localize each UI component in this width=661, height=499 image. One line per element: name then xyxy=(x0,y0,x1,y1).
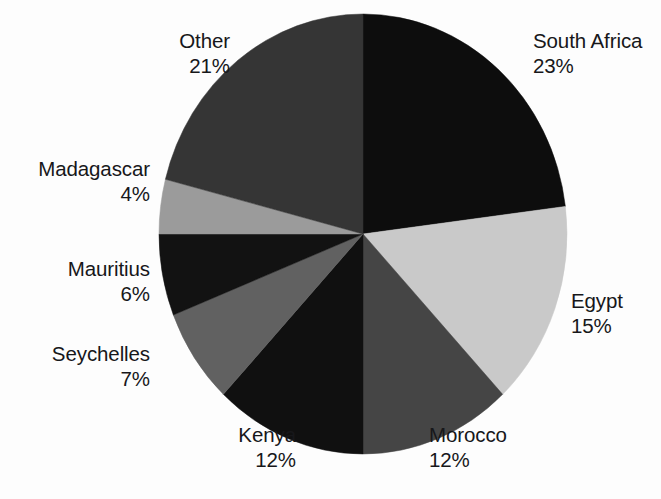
pie-label-morocco: Morocco 12% xyxy=(429,422,545,472)
pie-chart: Other 21% South Africa 23% Madagascar 4%… xyxy=(0,0,661,499)
pie-label-mauritius-name: Mauritius xyxy=(18,256,150,281)
pie-label-south-africa: South Africa 23% xyxy=(533,28,658,78)
pie-label-egypt: Egypt 15% xyxy=(571,288,657,338)
pie-label-egypt-percent: 15% xyxy=(571,313,657,338)
pie-label-madagascar-name: Madagascar xyxy=(8,156,150,181)
pie-label-madagascar-percent: 4% xyxy=(8,181,150,206)
pie-label-madagascar: Madagascar 4% xyxy=(8,156,150,206)
pie-label-mauritius: Mauritius 6% xyxy=(18,256,150,306)
pie-label-kenya: Kenya 12% xyxy=(196,422,296,472)
pie-label-morocco-percent: 12% xyxy=(429,447,545,472)
pie-label-seychelles-name: Seychelles xyxy=(38,341,150,366)
pie-label-egypt-name: Egypt xyxy=(571,288,657,313)
pie-slices-group xyxy=(159,14,567,454)
pie-label-kenya-percent: 12% xyxy=(196,447,296,472)
pie-label-other-name: Other xyxy=(120,28,230,53)
pie-label-other-percent: 21% xyxy=(120,53,230,78)
pie-label-kenya-name: Kenya xyxy=(196,422,296,447)
pie-label-south-africa-percent: 23% xyxy=(533,53,658,78)
pie-label-seychelles-percent: 7% xyxy=(38,366,150,391)
pie-label-south-africa-name: South Africa xyxy=(533,28,658,53)
pie-label-seychelles: Seychelles 7% xyxy=(38,341,150,391)
pie-label-morocco-name: Morocco xyxy=(429,422,545,447)
chart-page: Other 21% South Africa 23% Madagascar 4%… xyxy=(0,0,661,499)
pie-label-other: Other 21% xyxy=(120,28,230,78)
pie-label-mauritius-percent: 6% xyxy=(18,281,150,306)
